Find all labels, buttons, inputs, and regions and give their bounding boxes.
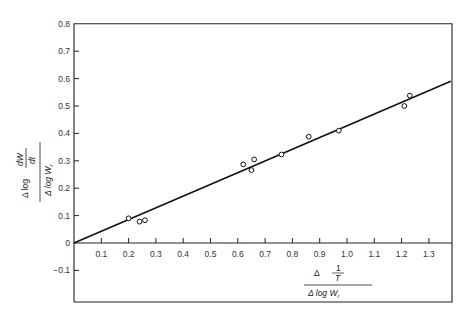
x-tick-label: 0.1	[95, 249, 107, 259]
y-tick-label: 0.8	[58, 19, 70, 29]
y-label-delta-log: Δ log	[20, 179, 30, 198]
x-tick-label: 0.4	[177, 249, 189, 259]
data-point-marker	[126, 216, 131, 221]
scatter-chart: 0.10.20.30.40.50.60.70.80.91.01.11.21.3 …	[0, 0, 471, 318]
x-label-numerator: 1	[336, 263, 341, 273]
y-tick-label: 0.6	[58, 74, 70, 84]
y-tick-label: 0.5	[58, 101, 70, 111]
x-tick-label: 1.2	[396, 249, 408, 259]
y-axis-ticks: −0.100.10.20.30.40.50.60.70.8	[53, 19, 79, 276]
data-point-marker	[252, 157, 257, 162]
data-point-marker	[137, 219, 142, 224]
y-tick-label: 0.3	[58, 156, 70, 166]
x-tick-label: 0.9	[314, 249, 326, 259]
x-label-delta: Δ	[314, 268, 320, 278]
x-tick-label: 1.0	[341, 249, 353, 259]
y-tick-label: −0.1	[53, 265, 70, 275]
data-point-marker	[402, 104, 407, 109]
x-label-bottom: Δ log Wr	[307, 288, 340, 299]
y-label-numerator: dW	[15, 152, 25, 166]
y-tick-label: 0	[65, 238, 70, 248]
x-tick-label: 1.3	[423, 249, 435, 259]
x-tick-label: 0.2	[123, 249, 135, 259]
x-tick-label: 0.7	[259, 249, 271, 259]
data-point-marker	[336, 128, 341, 133]
x-tick-label: 0.3	[150, 249, 162, 259]
x-axis-ticks: 0.10.20.30.40.50.60.70.80.91.01.11.21.3	[95, 238, 435, 259]
x-label-denominator: T	[335, 273, 341, 283]
y-label-bottom: Δ log Wr	[43, 164, 54, 197]
y-axis-label: Δ log dW dt Δ log Wr	[15, 142, 54, 202]
plot-frame	[74, 24, 452, 302]
data-point-marker	[407, 93, 412, 98]
y-tick-label: 0.7	[58, 46, 70, 56]
data-point-marker	[249, 168, 254, 173]
x-axis-label: Δ 1 T Δ log Wr	[304, 263, 372, 299]
y-tick-label: 0.1	[58, 211, 70, 221]
y-tick-label: 0.4	[58, 128, 70, 138]
x-tick-label: 0.6	[232, 249, 244, 259]
data-point-marker	[241, 162, 246, 167]
y-tick-label: 0.2	[58, 183, 70, 193]
data-point-marker	[279, 152, 284, 157]
x-tick-label: 0.5	[205, 249, 217, 259]
x-tick-label: 0.8	[286, 249, 298, 259]
data-point-marker	[143, 218, 148, 223]
data-point-marker	[306, 134, 311, 139]
x-tick-label: 1.1	[368, 249, 380, 259]
y-label-denominator: dt	[27, 156, 37, 164]
